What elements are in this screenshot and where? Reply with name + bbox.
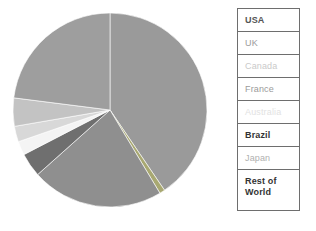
legend-item-france[interactable]: France <box>238 78 299 101</box>
pie-slice-rest-of-world[interactable] <box>14 13 110 110</box>
pie-chart-svg <box>12 12 208 208</box>
chart-canvas: USAUKCanadaFranceAustraliaBrazilJapanRes… <box>0 0 316 231</box>
legend-item-australia[interactable]: Australia <box>238 101 299 124</box>
legend-item-usa[interactable]: USA <box>238 9 299 32</box>
legend-item-label: UK <box>245 38 258 49</box>
legend-item-uk[interactable]: UK <box>238 32 299 55</box>
legend-item-label: France <box>245 84 274 95</box>
legend-item-japan[interactable]: Japan <box>238 147 299 170</box>
legend-item-rest-of-world[interactable]: Rest of World <box>238 170 299 210</box>
legend-box: USAUKCanadaFranceAustraliaBrazilJapanRes… <box>237 8 300 211</box>
legend-item-label: Brazil <box>245 130 270 141</box>
legend-item-canada[interactable]: Canada <box>238 55 299 78</box>
pie-slice-group <box>13 13 207 207</box>
legend-item-label: Canada <box>245 61 277 72</box>
legend-item-label: Australia <box>245 107 281 118</box>
legend-item-brazil[interactable]: Brazil <box>238 124 299 147</box>
pie-chart <box>12 12 208 208</box>
legend-item-label: Japan <box>245 153 270 164</box>
legend-item-label: Rest of World <box>245 176 277 198</box>
legend-item-label: USA <box>245 15 264 26</box>
